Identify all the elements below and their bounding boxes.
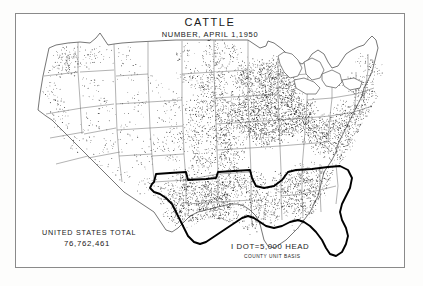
us-total-label: UNITED STATES TOTAL bbox=[42, 228, 136, 237]
county-unit-basis-note: COUNTY UNIT BASIS bbox=[244, 254, 301, 259]
us-total-value: 76,762,461 bbox=[64, 239, 110, 248]
map-ink-layer bbox=[38, 33, 383, 256]
dot-value-legend: I DOT=5,000 HEAD bbox=[231, 242, 309, 251]
national-boundary bbox=[38, 33, 378, 248]
scanned-sheet: CATTLE NUMBER, APRIL 1,1950 bbox=[0, 0, 423, 286]
map-frame: CATTLE NUMBER, APRIL 1,1950 bbox=[15, 13, 405, 268]
